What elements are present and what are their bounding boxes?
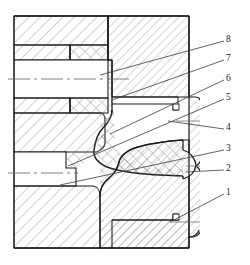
callout-label-2: 2 xyxy=(226,164,231,174)
die-holder-upper-body xyxy=(108,16,189,97)
container-upper-liner-band xyxy=(14,45,108,60)
callout-label-7: 7 xyxy=(226,54,231,64)
callout-label-4: 4 xyxy=(226,123,231,133)
technical-drawing xyxy=(0,0,250,265)
container-mid-liner-band xyxy=(14,98,108,113)
die-seat-upper xyxy=(112,97,179,110)
callout-label-1: 1 xyxy=(226,188,231,198)
container-lower-left-block xyxy=(14,186,100,248)
callout-label-5: 5 xyxy=(226,93,231,103)
callout-label-8: 8 xyxy=(226,35,231,45)
callout-label-3: 3 xyxy=(226,144,231,154)
callout-label-6: 6 xyxy=(226,74,231,84)
figure-root: 87654321 xyxy=(0,0,250,265)
container-mid-left-block xyxy=(14,113,105,152)
container-upper-left-block xyxy=(14,16,108,45)
